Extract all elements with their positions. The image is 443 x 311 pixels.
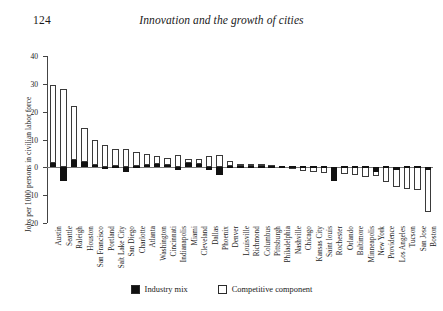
x-category-label: Chicago xyxy=(305,226,313,250)
bar-segment-industry-mix xyxy=(60,167,66,181)
bar-segment-competitive xyxy=(133,152,139,166)
y-tick: 40 xyxy=(43,56,47,57)
x-category-label: Boston xyxy=(430,226,438,247)
bar-segment-competitive xyxy=(112,149,118,166)
bar-segment-competitive xyxy=(206,156,212,167)
bar-segment-industry-mix xyxy=(404,166,410,168)
legend-swatch-competitive-component xyxy=(218,285,227,294)
x-category-label: Miami xyxy=(191,226,199,245)
bar-group xyxy=(339,56,349,223)
bar-group xyxy=(308,56,318,223)
legend-label-competitive-component: Competitive component xyxy=(232,285,313,294)
bar-segment-industry-mix xyxy=(175,167,181,169)
y-tick: 20 xyxy=(43,112,47,113)
x-category-label: Cincinnati xyxy=(170,226,178,256)
x-category-label: Phoenix xyxy=(222,226,230,250)
bar-segment-industry-mix xyxy=(300,166,306,168)
bar-segment-industry-mix xyxy=(227,166,233,168)
x-category-label: Saint louis xyxy=(326,226,334,257)
y-tick-label: 10 xyxy=(30,135,38,144)
x-category-label: Raleigh xyxy=(76,226,84,249)
bar-group xyxy=(121,56,131,223)
bar-group xyxy=(329,56,339,223)
bar-segment-competitive xyxy=(81,128,87,162)
bar-segment-industry-mix xyxy=(352,166,358,168)
x-category-label: Orlando xyxy=(347,226,355,250)
bar-group xyxy=(350,56,360,223)
running-head: 124 Innovation and the growth of cities xyxy=(0,14,443,32)
bar-segment-industry-mix xyxy=(289,166,295,168)
x-category-label: Seattle xyxy=(66,226,74,246)
bar-segment-competitive xyxy=(102,145,108,167)
x-category-label: Salt Lake City xyxy=(118,226,126,268)
legend-label-industry-mix: Industry mix xyxy=(145,285,188,294)
bar-segment-industry-mix xyxy=(112,166,118,168)
bar-segment-competitive xyxy=(175,155,181,167)
bar-group xyxy=(360,56,370,223)
bar-segment-competitive xyxy=(425,167,431,212)
bar-segment-industry-mix xyxy=(425,167,431,170)
bar-group xyxy=(277,56,287,223)
bar-series xyxy=(48,56,433,223)
bar-group xyxy=(131,56,141,223)
x-category-label: Indianapolis xyxy=(180,226,188,262)
bar-segment-industry-mix xyxy=(248,166,254,168)
bar-segment-industry-mix xyxy=(321,166,327,168)
y-tick: 30 xyxy=(43,84,47,85)
bar-group xyxy=(371,56,381,223)
legend-item-competitive-component: Competitive component xyxy=(218,285,313,294)
bar-segment-industry-mix xyxy=(331,167,337,181)
y-tick-label: –10 xyxy=(27,191,38,200)
bar-segment-industry-mix xyxy=(71,160,77,167)
x-category-label: Tucson xyxy=(409,226,417,247)
running-title: Innovation and the growth of cities xyxy=(0,14,443,26)
bar-group xyxy=(173,56,183,223)
chart-legend: Industry mix Competitive component xyxy=(0,285,443,294)
bar-group xyxy=(142,56,152,223)
bar-group xyxy=(267,56,277,223)
bar-segment-competitive xyxy=(164,158,170,165)
x-category-label: Nashville xyxy=(295,226,303,254)
bar-segment-competitive xyxy=(71,106,77,160)
bar-segment-competitive xyxy=(60,89,66,167)
x-category-label: Louisville xyxy=(243,226,251,256)
bar-segment-industry-mix xyxy=(123,167,129,171)
bar-segment-industry-mix xyxy=(50,163,56,167)
bar-segment-industry-mix xyxy=(279,166,285,168)
bar-segment-industry-mix xyxy=(414,166,420,168)
bar-segment-industry-mix xyxy=(133,166,139,168)
x-category-label: New York xyxy=(378,226,386,256)
bar-group xyxy=(298,56,308,223)
bar-segment-industry-mix xyxy=(268,166,274,168)
x-category-label: Richmond xyxy=(253,226,261,256)
x-category-label: Charlotte xyxy=(139,226,147,253)
x-category-label: Minneapolis xyxy=(368,226,376,262)
x-category-label: San Diego xyxy=(128,226,136,257)
y-tick-label: –20 xyxy=(27,219,38,228)
x-category-label: Philadelphia xyxy=(284,226,292,263)
y-tick: 10 xyxy=(43,140,47,141)
bar-segment-industry-mix xyxy=(92,165,98,167)
x-category-label: Houston xyxy=(87,226,95,251)
x-category-label: San Francisco xyxy=(97,226,105,267)
x-category-label: Portland xyxy=(108,226,116,251)
y-tick-label: 30 xyxy=(30,79,38,88)
x-category-label: Providence xyxy=(388,226,396,259)
x-category-label: Kansas City xyxy=(316,226,324,262)
y-tick-label: 0 xyxy=(34,163,38,172)
bar-segment-industry-mix xyxy=(393,167,399,169)
y-tick-label: 40 xyxy=(30,52,38,61)
bar-segment-industry-mix xyxy=(206,167,212,169)
bar-group xyxy=(235,56,245,223)
bar-segment-competitive xyxy=(216,155,222,168)
bar-group xyxy=(69,56,79,223)
x-category-label: San Jose xyxy=(420,226,428,251)
y-tick: –10 xyxy=(43,195,47,196)
x-category-label: Columbus xyxy=(264,226,272,256)
chart-figure: Jobs per 1000 persons in civilian labor … xyxy=(0,38,443,311)
bar-group xyxy=(110,56,120,223)
figure-page: 124 Innovation and the growth of cities … xyxy=(0,0,443,311)
bar-segment-industry-mix xyxy=(341,166,347,168)
bar-segment-industry-mix xyxy=(383,166,389,168)
plot-area: 403020100–10–20 xyxy=(47,56,433,223)
